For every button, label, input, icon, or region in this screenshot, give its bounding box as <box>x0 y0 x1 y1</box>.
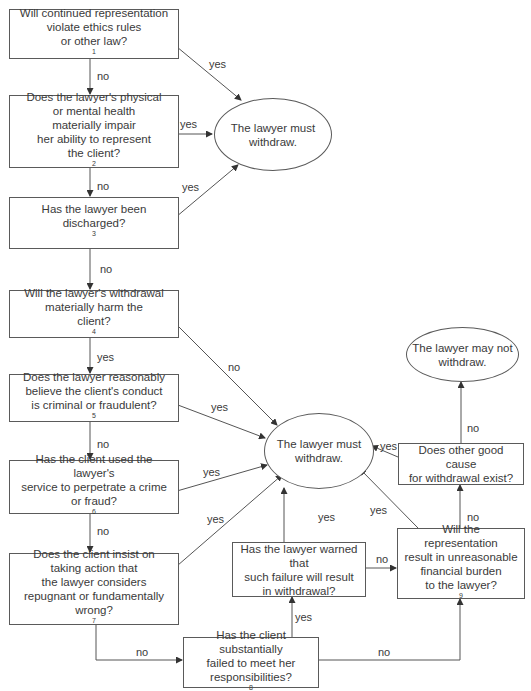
edge-label-q2-no: no <box>97 180 109 192</box>
node-text: Does the lawyer reasonably believe the c… <box>23 370 165 412</box>
decision-service-misused: Has the client used the lawyer's service… <box>9 460 179 514</box>
node-text: Has the lawyer been discharged? <box>42 202 147 230</box>
outcome-text: The lawyer may not withdraw. <box>412 341 512 369</box>
decision-discharged: Has the lawyer been discharged?3 <box>9 197 179 249</box>
edge-label-q9-no: no <box>376 553 388 565</box>
edge-label-q11-yes: yes <box>380 440 397 452</box>
edge-label-q3-yes: yes <box>182 181 199 193</box>
footnote-ref: 2 <box>92 160 96 167</box>
node-text: Has the lawyer warned that such failure … <box>239 542 359 598</box>
outcome-text: The lawyer must withdraw. <box>231 121 315 149</box>
node-text: Has the client substantially failed to m… <box>190 628 312 684</box>
node-text: Will continued representation violate et… <box>20 6 168 48</box>
node-text: Does the client insist on taking action … <box>24 547 164 617</box>
edge-label-q4-no: no <box>228 361 240 373</box>
footnote-ref: 1 <box>92 48 96 55</box>
footnote-ref: 3 <box>92 230 96 237</box>
outcome-must-withdraw-middle: The lawyer must withdraw. <box>264 413 374 489</box>
decision-lawyer-warned: Has the lawyer warned that such failure … <box>232 542 366 597</box>
decision-criminal-conduct: Does the lawyer reasonably believe the c… <box>9 374 179 422</box>
edge-label-q6-no: no <box>97 525 109 537</box>
edge-label-q11-no: no <box>467 422 479 434</box>
edge-label-q6-yes: yes <box>203 466 220 478</box>
footnote-ref: 9 <box>459 592 463 599</box>
footnote-ref: 5 <box>92 412 96 419</box>
node-text: Has the client used the lawyer's service… <box>16 452 172 508</box>
decision-other-good-cause: Does other good cause for withdrawal exi… <box>398 443 524 485</box>
edge-label-q7-no: no <box>136 646 148 658</box>
decision-repugnant-action: Does the client insist on taking action … <box>9 553 179 625</box>
decision-withdrawal-harm: Will the lawyer's withdrawal materially … <box>9 290 179 338</box>
edge-label-q1-no: no <box>97 70 109 82</box>
edge-label-q4-yes: yes <box>97 351 114 363</box>
node-text: Does other good cause for withdrawal exi… <box>405 443 517 485</box>
edge-label-q5-no: no <box>97 438 109 450</box>
decision-violate-ethics: Will continued representation violate et… <box>9 9 179 59</box>
footnote-ref: 7 <box>92 617 96 624</box>
decision-health-impairment: Does the lawyer's physical or mental hea… <box>9 95 179 168</box>
edge-label-q10-yes: yes <box>370 504 387 516</box>
footnote-ref: 6 <box>92 508 96 515</box>
edge-label-q8-yes: yes <box>295 611 312 623</box>
outcome-may-not-withdraw: The lawyer may not withdraw. <box>406 327 519 382</box>
edge-label-q9-yes: yes <box>318 511 335 523</box>
decision-financial-burden: Will the representation result in unreas… <box>397 528 525 599</box>
edge-label-q5-yes: yes <box>211 401 228 413</box>
edge-label-q10-no: no <box>467 511 479 523</box>
node-text: Will the representation result in unreas… <box>404 522 518 592</box>
outcome-text: The lawyer must withdraw. <box>277 437 361 465</box>
footnote-ref: 8 <box>249 684 253 691</box>
edge-label-q3-no: no <box>100 263 112 275</box>
withdrawal-flowchart: Will continued representation violate et… <box>0 0 531 691</box>
node-text: Does the lawyer's physical or mental hea… <box>26 90 161 160</box>
edge-label-q8-no: no <box>378 646 390 658</box>
edge-label-q7-yes: yes <box>207 513 224 525</box>
outcome-must-withdraw-top: The lawyer must withdraw. <box>214 98 332 171</box>
decision-client-failed-responsibilities: Has the client substantially failed to m… <box>183 637 319 688</box>
footnote-ref: 4 <box>92 328 96 335</box>
edge-label-q2-yes: yes <box>180 118 197 130</box>
node-text: Will the lawyer's withdrawal materially … <box>24 286 164 328</box>
edge-label-q1-yes: yes <box>209 58 226 70</box>
